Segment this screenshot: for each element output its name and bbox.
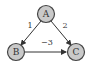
node-b-label: B xyxy=(13,47,20,57)
node-a-label: A xyxy=(42,9,50,19)
graph-svg: 1 2 −3 A B C xyxy=(0,0,92,70)
edge-a-to-c xyxy=(51,21,71,45)
edge-label-a-b: 1 xyxy=(27,21,32,30)
edge-label-b-c: −3 xyxy=(41,38,53,47)
node-c-label: C xyxy=(73,47,80,57)
node-b: B xyxy=(8,44,25,61)
edge-label-a-c: 2 xyxy=(62,21,67,30)
node-a: A xyxy=(38,6,55,23)
graph-diagram: 1 2 −3 A B C xyxy=(0,0,92,70)
node-c: C xyxy=(68,44,85,61)
